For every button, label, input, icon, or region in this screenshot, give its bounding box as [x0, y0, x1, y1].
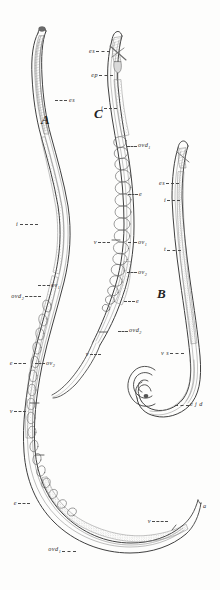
label-b-ejd: e j d — [190, 401, 203, 407]
label-a-v2: v — [148, 518, 151, 524]
label-a-a: a — [203, 503, 207, 509]
label-b-i: i — [164, 197, 166, 203]
leader-a-ov2 — [35, 363, 45, 364]
leader-b-vs — [170, 353, 184, 354]
leader-c-e2 — [124, 301, 135, 302]
leader-b-t — [167, 250, 181, 251]
leader-a-i — [20, 224, 38, 225]
label-a-ov1: ov1 — [51, 282, 60, 288]
leader-a-ovd2 — [25, 296, 41, 297]
leader-c-ovd1 — [127, 146, 137, 147]
label-c-es: es — [89, 48, 95, 54]
label-a-ovd2: ovd2 — [11, 293, 24, 299]
label-c-ovd1: ovd1 — [138, 142, 151, 148]
label-c-e2: e — [136, 298, 139, 304]
figure-label-b: B — [157, 286, 166, 302]
leader-a-es — [55, 100, 67, 101]
leader-c-ov1 — [128, 242, 137, 243]
label-b-t: t — [164, 246, 166, 252]
leader-c-v2 — [90, 354, 101, 355]
leader-c-ovd2 — [118, 331, 128, 332]
leader-c-ep — [99, 75, 113, 76]
label-b-vs: v s — [161, 350, 169, 356]
leader-c-es — [96, 51, 110, 52]
label-c-ov1: ov1 — [138, 239, 147, 245]
leader-a-ovd1 — [62, 551, 76, 552]
plate-drawing — [0, 0, 220, 590]
label-c-v2: v — [86, 351, 89, 357]
leader-a-v2 — [152, 521, 168, 522]
label-a-i: i — [16, 221, 18, 227]
label-a-e1: e — [10, 360, 13, 366]
figure-c-drawing — [52, 31, 134, 398]
figure-label-a: A — [41, 112, 50, 128]
label-a-e2: e — [14, 500, 17, 506]
label-a-es: es — [69, 97, 75, 103]
figure-a-drawing — [23, 27, 201, 553]
figure-b-spicule-curl — [128, 366, 155, 406]
label-c-v1: v — [94, 239, 97, 245]
leader-a-e1 — [14, 363, 26, 364]
leader-c-i — [104, 108, 117, 109]
label-a-v1: v — [10, 408, 13, 414]
leader-a-v1 — [14, 411, 26, 412]
leader-c-e1 — [128, 194, 138, 195]
label-a-ov2: ov2 — [46, 360, 55, 366]
label-c-e1: e — [139, 191, 142, 197]
anatomical-plate: A B C es i ov1 ovd2 e ov2 v e ovd1 v a — [0, 0, 220, 590]
leader-a-e2 — [18, 503, 30, 504]
leader-c-ov2 — [127, 272, 137, 273]
label-c-i: i — [101, 105, 103, 111]
leader-b-i — [167, 200, 180, 201]
label-b-es: es — [159, 180, 165, 186]
leader-b-es — [166, 183, 179, 184]
leader-c-v1 — [98, 242, 110, 243]
leader-a-ov1 — [38, 285, 50, 286]
leader-b-ejd — [175, 405, 189, 406]
label-c-ov2: ov2 — [138, 269, 147, 275]
label-c-ovd2: ovd2 — [129, 327, 142, 333]
label-c-ep: ep — [91, 72, 98, 78]
label-a-ovd1: ovd1 — [48, 546, 61, 552]
